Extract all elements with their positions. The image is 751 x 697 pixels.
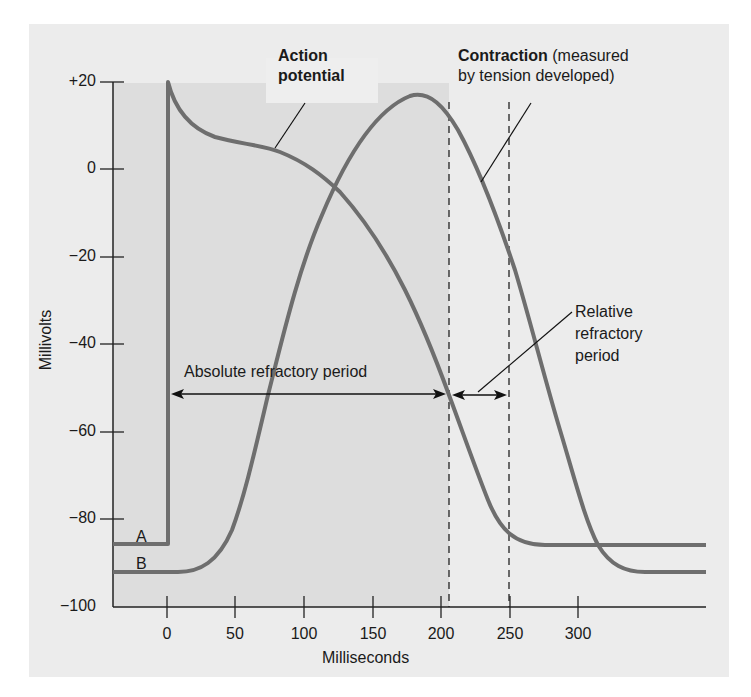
- y-tick-label: −60: [36, 422, 96, 440]
- contraction-label-rest: (measured: [548, 47, 629, 64]
- relative-refractory-label-line3: period: [575, 346, 619, 365]
- action-potential-label-line2: potential: [278, 66, 345, 85]
- x-axis-title: Milliseconds: [322, 648, 409, 667]
- y-tick-label: −20: [36, 247, 96, 265]
- x-tick-label: 50: [210, 625, 260, 643]
- contraction-label-line1: Contraction (measured: [458, 46, 629, 65]
- contraction-label-bold: Contraction: [458, 47, 548, 64]
- y-axis-title: Millivolts: [37, 310, 55, 370]
- y-tick-label: 0: [36, 159, 96, 177]
- y-tick-label: −100: [36, 597, 96, 615]
- x-tick-label: 200: [416, 625, 466, 643]
- x-tick-label: 250: [485, 625, 535, 643]
- curve-a-label: A: [136, 527, 147, 546]
- curve-b-label: B: [136, 554, 147, 573]
- relative-refractory-label-line2: refractory: [575, 324, 643, 343]
- contraction-label-line2: by tension developed): [458, 66, 615, 85]
- relative-refractory-leader: [478, 312, 572, 392]
- chart-plot: [0, 0, 751, 697]
- x-tick-label: 100: [279, 625, 329, 643]
- action-potential-label-line1: Action: [278, 46, 328, 65]
- contraction-leader: [481, 103, 531, 182]
- x-tick-label: 300: [553, 625, 603, 643]
- relative-refractory-label-line1: Relative: [575, 302, 633, 321]
- x-tick-label: 0: [142, 625, 192, 643]
- absolute-refractory-label: Absolute refractory period: [184, 362, 367, 381]
- y-tick-label: −80: [36, 509, 96, 527]
- x-tick-label: 150: [348, 625, 398, 643]
- y-tick-label: +20: [36, 72, 96, 90]
